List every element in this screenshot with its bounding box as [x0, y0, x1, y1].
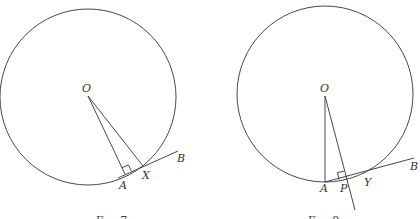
figure-7: O A X B Fig. 7: [0, 9, 185, 219]
fig7-caption: Fig. 7: [96, 214, 127, 219]
fig7-segment-OX: [88, 96, 143, 166]
fig8-caption: Fig. 8: [308, 214, 339, 219]
fig8-label-B: B: [409, 160, 418, 173]
fig8-label-A: A: [319, 182, 328, 195]
fig7-label-X: X: [141, 169, 151, 182]
geometry-figures: O A X B Fig. 7 O A P Y B Fig. 8: [0, 0, 420, 219]
fig7-label-A: A: [118, 179, 127, 192]
fig8-label-P: P: [339, 182, 348, 195]
figure-8: O A P Y B Fig. 8: [237, 6, 418, 219]
fig7-label-B: B: [176, 152, 185, 165]
fig7-segment-OA: [88, 96, 125, 174]
fig8-label-Y: Y: [364, 176, 373, 189]
fig8-label-O: O: [320, 82, 329, 95]
fig7-label-O: O: [82, 82, 91, 95]
